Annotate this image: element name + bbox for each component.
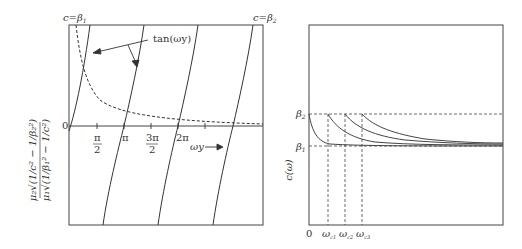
origin-label: 0 <box>62 120 68 131</box>
right-plot-frame <box>309 25 503 225</box>
tick-3pi-over-2-num: 3π <box>146 132 159 143</box>
mode-0 <box>309 114 503 146</box>
tick-pi: π <box>122 132 129 143</box>
figure-canvas: c=β1 c=β2 tan(ωy) 0 π 2 π 3π 2 2π ωy μ₂√… <box>0 0 522 249</box>
y-label-denominator: μ₁√(1/β₁² − 1/c²) <box>40 119 51 201</box>
y-label-numerator: μ₂√(1/c² − 1/β₂²) <box>27 119 38 201</box>
wc2-label: ωc2 <box>339 228 353 240</box>
tan-branch-4 <box>213 25 253 225</box>
mode-3 <box>362 114 503 143</box>
x-axis-label-omega-y: ωy <box>190 141 204 152</box>
tan-branch-3 <box>158 25 198 225</box>
left-y-axis-label: μ₂√(1/c² − 1/β₂²) μ₁√(1/β₁² − 1/c²) <box>27 119 51 201</box>
wc3-label: ωc3 <box>356 228 370 240</box>
left-plot-frame <box>69 25 263 225</box>
tan-curve-label: tan(ωy) <box>153 33 191 44</box>
beta2-tick-label: β2 <box>295 108 306 120</box>
dispersion-curves <box>309 114 503 146</box>
right-y-axis-label: c(ω) <box>283 159 294 181</box>
mode-2 <box>345 114 503 144</box>
beta1-tick-label: β1 <box>295 141 306 153</box>
beta2-boundary-label: c=β2 <box>253 12 277 24</box>
tan-branch-1 <box>69 25 90 131</box>
guide-lines <box>309 114 503 225</box>
wc1-label: ωc1 <box>322 228 336 240</box>
tick-3pi-over-2-den: 2 <box>149 144 155 155</box>
x-tick-labels: π 2 π 3π 2 2π <box>93 132 189 155</box>
left-plot <box>69 25 263 225</box>
right-origin-label: 0 <box>306 228 312 239</box>
tick-2pi: 2π <box>176 132 189 143</box>
right-plot <box>309 25 503 225</box>
tick-pi-over-2-den: 2 <box>94 144 100 155</box>
tick-pi-over-2-num: π <box>94 132 101 143</box>
beta1-boundary-label: c=β1 <box>63 12 87 24</box>
